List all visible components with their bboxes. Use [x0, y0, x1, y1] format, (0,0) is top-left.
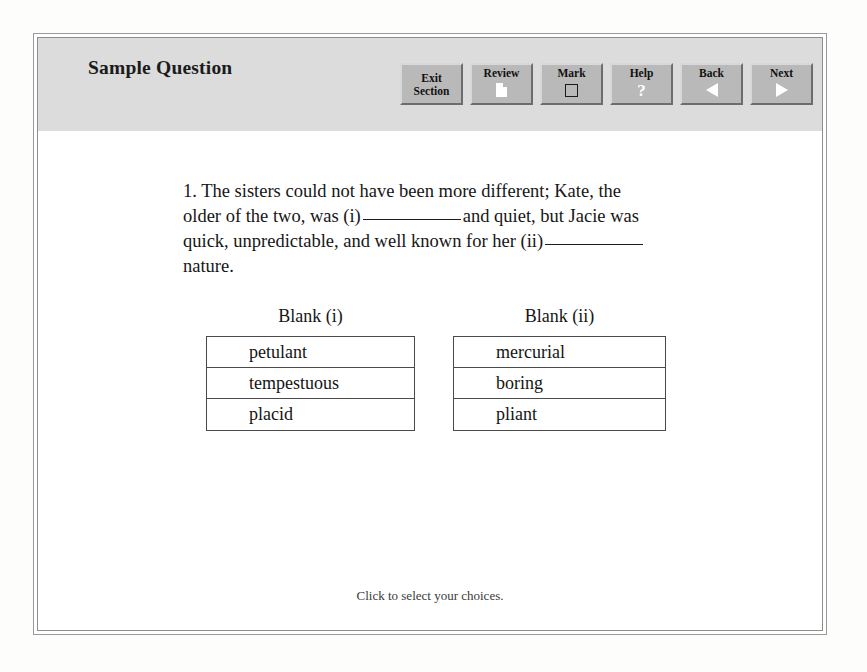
blank-rule-i — [363, 219, 461, 220]
exam-window: Sample Question Exit Section Review Mark — [33, 33, 827, 635]
help-button-label: Help — [630, 68, 654, 80]
next-button[interactable]: Next — [750, 63, 813, 105]
review-button-label: Review — [484, 68, 520, 80]
choice-row[interactable]: pliant — [454, 399, 665, 430]
exam-window-inner: Sample Question Exit Section Review Mark — [37, 37, 823, 631]
page-title: Sample Question — [88, 57, 232, 79]
choice-label: tempestuous — [207, 373, 339, 394]
help-button[interactable]: Help ? — [610, 63, 673, 105]
exit-section-label-line2: Section — [414, 85, 450, 97]
exit-section-button[interactable]: Exit Section — [400, 63, 463, 105]
mark-button[interactable]: Mark — [540, 63, 603, 105]
back-button[interactable]: Back — [680, 63, 743, 105]
triangle-right-icon — [776, 82, 788, 99]
blank-group-i: Blank (i) petulant tempestuous placid — [206, 306, 415, 431]
choice-row[interactable]: petulant — [207, 337, 414, 368]
question-body: 1. The sisters could not have been more … — [38, 131, 822, 630]
mark-button-label: Mark — [557, 68, 585, 80]
question-segment-3: nature. — [183, 256, 234, 276]
footer-hint: Click to select your choices. — [38, 588, 822, 604]
review-button[interactable]: Review — [470, 63, 533, 105]
toolbar: Exit Section Review Mark — [400, 63, 813, 105]
choice-label: boring — [454, 373, 543, 394]
blank-group-ii: Blank (ii) mercurial boring pliant — [453, 306, 666, 431]
header-band: Sample Question Exit Section Review Mark — [38, 38, 822, 131]
choice-row[interactable]: tempestuous — [207, 368, 414, 399]
question-stem: 1. The sisters could not have been more … — [183, 179, 663, 279]
choice-label: placid — [207, 404, 293, 425]
blank-heading-ii: Blank (ii) — [525, 306, 595, 327]
choice-row[interactable]: mercurial — [454, 337, 665, 368]
question-mark-icon: ? — [637, 82, 646, 99]
choice-table-ii: mercurial boring pliant — [453, 336, 666, 431]
choice-row[interactable]: boring — [454, 368, 665, 399]
choice-label: mercurial — [454, 342, 565, 363]
choice-label: petulant — [207, 342, 307, 363]
document-icon — [496, 82, 507, 99]
next-button-label: Next — [770, 68, 793, 80]
back-button-label: Back — [699, 68, 724, 80]
choice-row[interactable]: placid — [207, 399, 414, 430]
checkbox-icon — [565, 82, 578, 99]
choice-table-i: petulant tempestuous placid — [206, 336, 415, 431]
exit-section-label-line1: Exit — [421, 72, 441, 84]
blank-heading-i: Blank (i) — [278, 306, 343, 327]
answer-area: Blank (i) petulant tempestuous placid — [38, 306, 822, 431]
blank-rule-ii — [545, 244, 643, 245]
choice-label: pliant — [454, 404, 537, 425]
triangle-left-icon — [706, 82, 718, 99]
exit-section-button-label: Exit Section — [414, 68, 450, 97]
